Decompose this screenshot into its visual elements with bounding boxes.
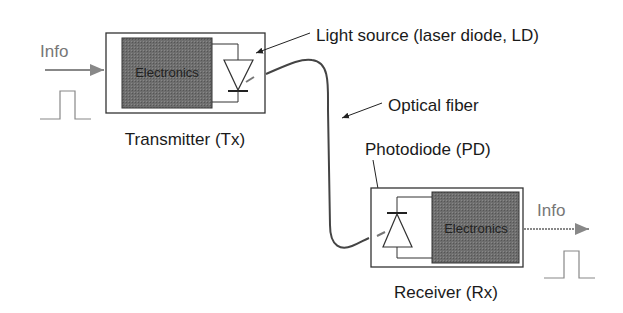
receiver-label: Receiver (Rx) bbox=[394, 283, 498, 302]
transmitter-label: Transmitter (Tx) bbox=[125, 130, 245, 149]
optical-link-diagram: Info Electronics Transmitter (Tx) Light … bbox=[0, 0, 623, 313]
receiver: Electronics Receiver (Rx) bbox=[371, 188, 523, 302]
tx-electronics-label: Electronics bbox=[135, 65, 199, 80]
light-source-label: Light source (laser diode, LD) bbox=[316, 26, 539, 45]
fiber-label: Optical fiber bbox=[388, 96, 479, 115]
photodiode-label: Photodiode (PD) bbox=[365, 140, 491, 159]
fiber-arrow bbox=[342, 103, 382, 118]
rx-electronics-label: Electronics bbox=[444, 221, 508, 236]
optical-fiber bbox=[266, 60, 369, 248]
tx-pulse-icon bbox=[40, 91, 91, 119]
rx-info-label: Info bbox=[537, 201, 565, 220]
transmitter: Electronics Transmitter (Tx) bbox=[106, 33, 265, 149]
tx-info-label: Info bbox=[40, 42, 68, 61]
rx-pulse-icon bbox=[544, 251, 595, 278]
rx-output: Info bbox=[524, 201, 595, 278]
tx-input: Info bbox=[40, 42, 104, 119]
